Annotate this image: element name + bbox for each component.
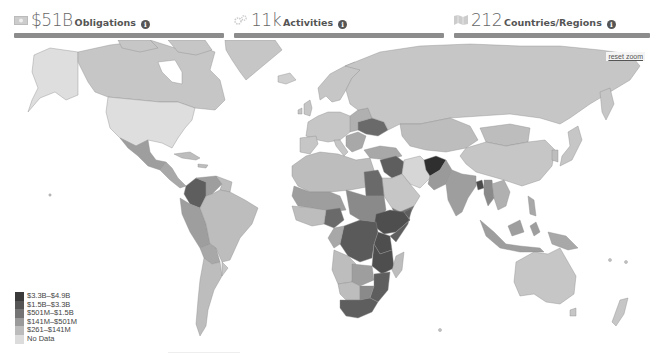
stat-label: Countries/Regions xyxy=(504,17,602,28)
country-ethiopia xyxy=(374,210,410,234)
country-namibia xyxy=(338,282,360,300)
stat-activities: 11k Activities i xyxy=(234,10,444,38)
reset-zoom-button[interactable]: reset zoom xyxy=(606,52,645,61)
country-nigeria xyxy=(324,208,344,228)
info-icon[interactable]: i xyxy=(607,20,616,29)
country-indonesia xyxy=(480,220,544,252)
country-south-africa xyxy=(340,298,378,318)
island xyxy=(609,259,612,262)
region-caribbean xyxy=(174,152,208,168)
country-argentina xyxy=(196,258,222,336)
legend-label: No Data xyxy=(27,335,55,344)
country-madagascar xyxy=(392,252,404,278)
stat-bar xyxy=(454,33,650,38)
country-philippines xyxy=(528,196,536,216)
island xyxy=(625,261,628,264)
region-north-africa xyxy=(292,152,374,192)
stat-bar xyxy=(234,33,444,38)
island xyxy=(49,194,51,196)
country-spain xyxy=(300,136,318,154)
gears-icon xyxy=(234,11,248,20)
map-icon xyxy=(454,11,468,20)
region-se-asia xyxy=(492,180,510,210)
country-japan xyxy=(560,126,582,166)
island xyxy=(439,329,442,332)
stat-label: Activities xyxy=(283,17,333,28)
stat-countries: 212 Countries/Regions i xyxy=(454,10,650,38)
region-alaska xyxy=(28,48,78,112)
region-tasmania xyxy=(570,308,576,316)
stat-value: $51B xyxy=(31,10,73,30)
world-choropleth-map[interactable] xyxy=(0,40,659,360)
country-png xyxy=(548,232,578,250)
region-central-america xyxy=(160,162,186,188)
country-uruguay xyxy=(222,262,228,276)
stat-label: Obligations xyxy=(75,17,136,28)
country-mexico xyxy=(120,138,166,170)
money-icon xyxy=(14,11,28,20)
stat-value: 212 xyxy=(471,10,502,30)
country-iceland xyxy=(278,73,296,84)
country-australia xyxy=(514,248,576,304)
legend-item: No Data xyxy=(15,335,77,344)
country-egypt xyxy=(364,170,384,196)
stat-value: 11k xyxy=(251,10,281,30)
country-russia xyxy=(345,44,640,130)
legend-swatch xyxy=(15,292,24,301)
stat-obligations: $51B Obligations i xyxy=(14,10,224,38)
region-kamchatka xyxy=(600,88,614,120)
summary-stats: $51B Obligations i 11k Activities i 212 … xyxy=(0,0,659,40)
country-uk xyxy=(298,100,312,116)
legend-swatch xyxy=(15,309,24,318)
country-usa xyxy=(106,97,195,148)
country-bangladesh xyxy=(476,180,484,190)
region-greenland xyxy=(225,40,282,80)
country-india xyxy=(446,170,476,216)
map-legend: $3.3B–$4.9B $1.5B–$3.3B $501M–$1.5B $141… xyxy=(15,292,77,344)
country-new-zealand xyxy=(612,298,628,326)
legend-swatch xyxy=(15,301,24,310)
country-korea xyxy=(552,150,558,162)
legend-swatch xyxy=(15,318,24,327)
info-icon[interactable]: i xyxy=(141,20,150,29)
legend-swatch xyxy=(15,326,24,335)
legend-swatch xyxy=(15,335,24,344)
divider xyxy=(168,352,240,353)
country-zambia xyxy=(352,264,374,286)
stat-bar xyxy=(14,33,224,38)
region-balkans xyxy=(346,132,366,152)
info-icon[interactable]: i xyxy=(338,20,347,29)
